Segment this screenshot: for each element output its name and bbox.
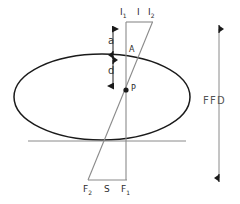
label-i1: I1 xyxy=(120,8,126,19)
label-f1-subscript: 1 xyxy=(126,189,130,196)
label-i-mid: I xyxy=(137,8,140,17)
point-p-marker xyxy=(123,87,128,92)
label-point-a: A xyxy=(129,46,134,54)
label-f1: F1 xyxy=(121,185,130,196)
label-dimension-a: a xyxy=(108,36,114,46)
label-s: S xyxy=(104,185,110,194)
label-point-p: P xyxy=(131,85,136,93)
figure-canvas: I1 I I2 a d A P FFD F2 S F1 xyxy=(0,0,240,204)
label-i-mid-text: I xyxy=(137,7,140,17)
label-i2: I2 xyxy=(148,8,154,19)
oblique-ray-line xyxy=(88,22,153,180)
label-ffd: FFD xyxy=(203,96,226,106)
label-i1-subscript: 1 xyxy=(123,12,127,19)
label-f2-subscript: 2 xyxy=(88,189,92,196)
ellipse-object xyxy=(14,54,190,140)
label-i2-subscript: 2 xyxy=(151,12,155,19)
label-f2: F2 xyxy=(83,185,92,196)
label-dimension-d: d xyxy=(108,66,114,76)
